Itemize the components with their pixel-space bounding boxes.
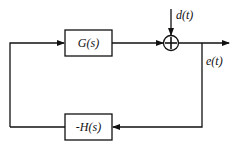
feedback-block: -H(s)	[65, 114, 112, 140]
forward-block-label: G(s)	[78, 36, 99, 50]
summing-junction	[164, 36, 179, 51]
feedback-line	[113, 43, 202, 127]
disturbance-label: d(t)	[176, 8, 193, 22]
forward-block: G(s)	[65, 30, 112, 56]
input-line	[10, 43, 64, 127]
block-diagram: G(s) d(t) e(t) -H(s)	[0, 0, 236, 144]
feedback-block-label: -H(s)	[76, 120, 101, 134]
output-label: e(t)	[206, 54, 223, 68]
